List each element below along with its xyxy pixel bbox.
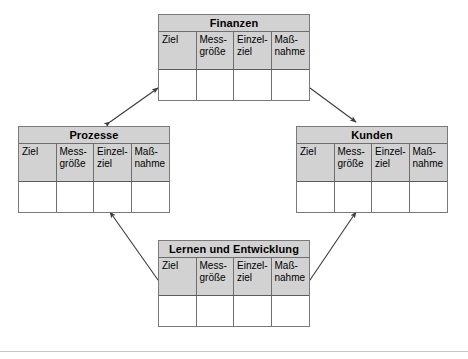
perspective-card-prozesse: Prozesse Ziel Mess-größe Einzel-ziel Maß… bbox=[18, 126, 170, 213]
column-header-ziel: Ziel bbox=[159, 258, 197, 295]
table-cell-ziel[interactable] bbox=[297, 182, 335, 212]
perspective-title-lernen-und-entwicklung: Lernen und Entwicklung bbox=[159, 241, 309, 258]
perspective-title-prozesse: Prozesse bbox=[19, 127, 169, 144]
column-header-massnahme: Maß-nahme bbox=[272, 32, 310, 69]
column-header-row: Ziel Mess-größe Einzel-ziel Maß-nahme bbox=[19, 144, 169, 182]
table-cell-ziel[interactable] bbox=[159, 70, 197, 100]
column-header-einzelziel: Einzel-ziel bbox=[234, 32, 272, 69]
column-header-massnahme: Maß-nahme bbox=[410, 144, 448, 181]
perspective-card-finanzen: Finanzen Ziel Mess-größe Einzel-ziel Maß… bbox=[158, 14, 310, 101]
column-header-massnahme: Maß-nahme bbox=[132, 144, 170, 181]
table-cell-messgroesse[interactable] bbox=[57, 182, 95, 212]
perspective-title-finanzen: Finanzen bbox=[159, 15, 309, 32]
table-cell-einzelziel[interactable] bbox=[234, 70, 272, 100]
connector-finanzen-kunden bbox=[310, 88, 356, 122]
table-row bbox=[297, 182, 447, 212]
perspective-card-lernen-und-entwicklung: Lernen und Entwicklung Ziel Mess-größe E… bbox=[158, 240, 310, 327]
column-header-messgroesse: Mess-größe bbox=[197, 258, 235, 295]
table-cell-massnahme[interactable] bbox=[132, 182, 170, 212]
table-cell-messgroesse[interactable] bbox=[335, 182, 373, 212]
table-row bbox=[159, 70, 309, 100]
perspective-card-kunden: Kunden Ziel Mess-größe Einzel-ziel Maß-n… bbox=[296, 126, 448, 213]
column-header-einzelziel: Einzel-ziel bbox=[372, 144, 410, 181]
table-cell-einzelziel[interactable] bbox=[94, 182, 132, 212]
table-cell-einzelziel[interactable] bbox=[234, 296, 272, 326]
column-header-massnahme: Maß-nahme bbox=[272, 258, 310, 295]
table-cell-massnahme[interactable] bbox=[410, 182, 448, 212]
connector-lernen-prozesse bbox=[110, 212, 158, 280]
column-header-einzelziel: Einzel-ziel bbox=[94, 144, 132, 181]
footer-divider bbox=[0, 351, 468, 352]
column-header-messgroesse: Mess-größe bbox=[57, 144, 95, 181]
connector-prozesse-finanzen bbox=[110, 88, 158, 122]
table-cell-massnahme[interactable] bbox=[272, 70, 310, 100]
balanced-scorecard-diagram: Finanzen Ziel Mess-größe Einzel-ziel Maß… bbox=[0, 0, 468, 359]
perspective-title-kunden: Kunden bbox=[297, 127, 447, 144]
column-header-einzelziel: Einzel-ziel bbox=[234, 258, 272, 295]
table-cell-messgroesse[interactable] bbox=[197, 296, 235, 326]
column-header-ziel: Ziel bbox=[19, 144, 57, 181]
column-header-row: Ziel Mess-größe Einzel-ziel Maß-nahme bbox=[159, 32, 309, 70]
column-header-ziel: Ziel bbox=[159, 32, 197, 69]
table-cell-ziel[interactable] bbox=[159, 296, 197, 326]
column-header-row: Ziel Mess-größe Einzel-ziel Maß-nahme bbox=[159, 258, 309, 296]
table-cell-messgroesse[interactable] bbox=[197, 70, 235, 100]
table-cell-massnahme[interactable] bbox=[272, 296, 310, 326]
table-row bbox=[19, 182, 169, 212]
column-header-messgroesse: Mess-größe bbox=[197, 32, 235, 69]
column-header-row: Ziel Mess-größe Einzel-ziel Maß-nahme bbox=[297, 144, 447, 182]
column-header-messgroesse: Mess-größe bbox=[335, 144, 373, 181]
table-cell-ziel[interactable] bbox=[19, 182, 57, 212]
table-row bbox=[159, 296, 309, 326]
column-header-ziel: Ziel bbox=[297, 144, 335, 181]
connector-lernen-kunden bbox=[310, 212, 356, 280]
table-cell-einzelziel[interactable] bbox=[372, 182, 410, 212]
